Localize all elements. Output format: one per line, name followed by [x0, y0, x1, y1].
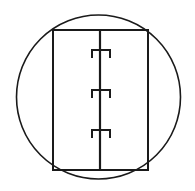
- technical-drawing-svg: [0, 0, 195, 191]
- figure-container: [0, 0, 195, 191]
- drawing-background: [0, 0, 195, 191]
